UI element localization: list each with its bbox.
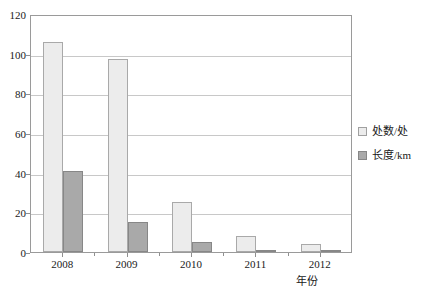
bar xyxy=(43,42,63,252)
bar xyxy=(192,242,212,252)
bar xyxy=(321,250,341,252)
y-tick-label: 80 xyxy=(0,89,26,100)
x-minor-tick-mark xyxy=(159,253,160,256)
bar xyxy=(301,244,321,252)
x-tick-label: 2009 xyxy=(97,259,157,270)
x-tick-label: 2008 xyxy=(32,259,92,270)
x-tick-label: 2012 xyxy=(290,259,350,270)
gridline xyxy=(31,56,351,57)
bar xyxy=(63,171,83,252)
y-tick-label: 100 xyxy=(0,50,26,61)
chart-legend: 处数/处 长度/km xyxy=(358,126,411,174)
x-tick-mark xyxy=(255,253,256,257)
gridline xyxy=(31,95,351,96)
legend-swatch-icon xyxy=(358,151,367,160)
legend-label: 处数/处 xyxy=(372,126,408,137)
y-tick-label: 0 xyxy=(0,248,26,259)
bar xyxy=(172,202,192,252)
legend-label: 长度/km xyxy=(372,150,411,161)
legend-item: 长度/km xyxy=(358,150,411,161)
bar xyxy=(128,222,148,252)
y-tick-mark xyxy=(26,253,30,254)
bar xyxy=(236,236,256,252)
x-tick-mark xyxy=(62,253,63,257)
legend-swatch-icon xyxy=(358,127,367,136)
x-minor-tick-mark xyxy=(94,253,95,256)
bar xyxy=(256,250,276,252)
x-minor-tick-mark xyxy=(288,253,289,256)
y-tick-label: 40 xyxy=(0,169,26,180)
y-tick-label: 20 xyxy=(0,208,26,219)
x-tick-mark xyxy=(320,253,321,257)
bar-chart: 020406080100120 20082009201020112012 年份 … xyxy=(0,0,431,306)
x-tick-label: 2010 xyxy=(161,259,221,270)
x-axis-title: 年份 xyxy=(296,276,318,287)
bar xyxy=(108,59,128,252)
x-tick-mark xyxy=(127,253,128,257)
y-tick-label: 60 xyxy=(0,129,26,140)
x-tick-mark xyxy=(191,253,192,257)
plot-area xyxy=(30,15,352,253)
x-minor-tick-mark xyxy=(223,253,224,256)
legend-item: 处数/处 xyxy=(358,126,411,137)
y-tick-label: 120 xyxy=(0,10,26,21)
gridline xyxy=(31,135,351,136)
x-tick-label: 2011 xyxy=(225,259,285,270)
